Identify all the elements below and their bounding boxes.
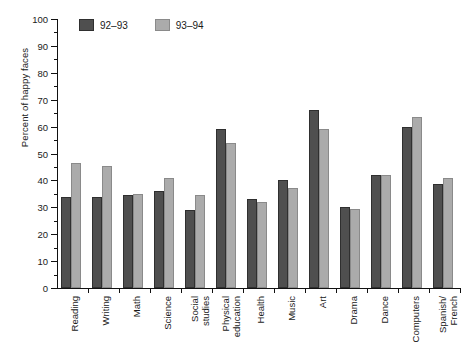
y-axis-minor-tick [54, 32, 58, 33]
y-axis-minor-tick [54, 86, 58, 87]
x-axis-tick [88, 288, 89, 293]
bar-1-6 [257, 202, 267, 288]
y-axis-tick-label: 80 [37, 67, 48, 78]
legend-swatch-icon-series-1 [155, 19, 170, 31]
y-axis-tick-label: 70 [37, 94, 48, 105]
y-axis-tick [51, 73, 57, 74]
bar-0-0 [61, 197, 71, 288]
y-axis-minor-tick [54, 275, 58, 276]
y-axis-minor-tick [54, 140, 58, 141]
bar-chart: Percent of happy faces 01020304050607080… [0, 0, 464, 357]
bar-0-2 [123, 195, 133, 288]
bar-0-10 [371, 175, 381, 288]
y-axis-minor-tick [54, 194, 58, 195]
y-axis-minor-tick [54, 59, 58, 60]
bar-1-10 [381, 175, 391, 288]
y-axis-tick-label: 30 [37, 202, 48, 213]
plot-area: 0102030405060708090100ReadingWritingMath… [57, 19, 460, 288]
y-axis-tick [51, 154, 57, 155]
x-axis-tick-label: Dance [380, 296, 391, 357]
bar-1-12 [443, 178, 453, 288]
bar-0-9 [340, 207, 350, 288]
y-axis-minor-tick [54, 167, 58, 168]
x-axis-tick-label: Health [256, 296, 267, 357]
y-axis-tick [51, 100, 57, 101]
x-axis-tick-label: Drama [349, 296, 360, 357]
bar-0-1 [92, 197, 102, 288]
y-axis-line [57, 19, 58, 288]
bar-0-8 [309, 110, 319, 288]
x-axis-tick [150, 288, 151, 293]
x-axis-tick [336, 288, 337, 293]
bar-0-11 [402, 127, 412, 288]
x-axis-tick [274, 288, 275, 293]
x-axis-tick-label: Music [287, 296, 298, 357]
bar-0-4 [185, 210, 195, 288]
legend-label-series-1: 93–94 [176, 20, 204, 31]
x-axis-tick-label: Math [132, 296, 143, 357]
y-axis-tick [51, 19, 57, 20]
y-axis-tick-label: 100 [32, 14, 48, 25]
x-axis-tick [212, 288, 213, 293]
legend-label-series-0: 92–93 [100, 20, 128, 31]
legend: 92–93 93–94 [79, 19, 204, 31]
y-axis-tick [51, 288, 57, 289]
legend-swatch-icon-series-0 [79, 19, 94, 31]
bar-1-8 [319, 129, 329, 288]
x-axis-tick-label: Science [163, 296, 174, 357]
x-axis-tick-label: Art [318, 296, 329, 357]
bar-1-0 [71, 163, 81, 288]
x-axis-tick-label: Spanish/French [438, 296, 459, 357]
y-axis-minor-tick [54, 221, 58, 222]
x-axis-tick [429, 288, 430, 293]
x-axis-tick [181, 288, 182, 293]
y-axis-tick-label: 0 [43, 283, 48, 294]
y-axis-tick [51, 234, 57, 235]
x-axis-tick [119, 288, 120, 293]
bar-1-4 [195, 195, 205, 288]
y-axis-tick [51, 127, 57, 128]
bar-0-6 [247, 199, 257, 288]
y-axis-tick-label: 10 [37, 256, 48, 267]
x-axis-tick [460, 288, 461, 293]
legend-item-series-1: 93–94 [155, 19, 204, 31]
x-axis-line [57, 288, 460, 289]
x-axis-tick-label: Computers [411, 296, 422, 357]
x-axis-tick [398, 288, 399, 293]
bar-0-3 [154, 191, 164, 288]
y-axis-tick [51, 261, 57, 262]
y-axis-tick [51, 180, 57, 181]
y-axis-tick-label: 90 [37, 40, 48, 51]
y-axis-minor-tick [54, 248, 58, 249]
x-axis-tick-label: Reading [70, 296, 81, 357]
x-axis-tick-label: Writing [101, 296, 112, 357]
x-axis-tick-label: Physicaleducation [221, 296, 242, 357]
x-axis-tick [367, 288, 368, 293]
bar-0-12 [433, 184, 443, 288]
bar-1-3 [164, 178, 174, 288]
bar-1-11 [412, 117, 422, 288]
x-axis-tick [305, 288, 306, 293]
y-axis-tick-label: 40 [37, 175, 48, 186]
y-axis-tick-label: 50 [37, 148, 48, 159]
bar-1-2 [133, 194, 143, 288]
bar-1-7 [288, 188, 298, 288]
bar-1-9 [350, 209, 360, 288]
y-axis-tick-label: 20 [37, 229, 48, 240]
legend-item-series-0: 92–93 [79, 19, 128, 31]
y-axis-minor-tick [54, 113, 58, 114]
x-axis-tick [243, 288, 244, 293]
y-axis-title: Percent of happy faces [19, 18, 30, 178]
y-axis-tick-label: 60 [37, 121, 48, 132]
bar-1-1 [102, 166, 112, 288]
x-axis-tick-label: Socialstudies [190, 296, 211, 357]
y-axis-tick [51, 207, 57, 208]
bar-0-5 [216, 129, 226, 288]
bar-0-7 [278, 180, 288, 288]
y-axis-tick [51, 46, 57, 47]
bar-1-5 [226, 143, 236, 288]
